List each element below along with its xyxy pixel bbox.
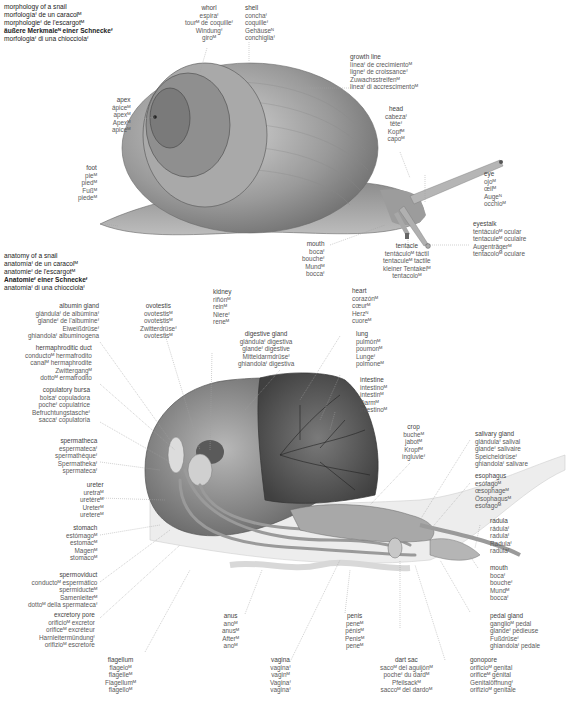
label-ureter: ureter uretraᴹ uretèreᴹ Ureterᴹ uretereᴹ [80,481,104,519]
morphology-title: morphology of a snail morfologíaᶠ de un … [4,3,113,43]
label-ovotestis: ovotestis ovotestisᴹ ovotestisᴹ Zwitterd… [140,302,177,340]
label-head: head cabezaᶠ têteᶠ Kopfᴹ capoᴹ [385,105,407,143]
label-anus: anus anoᴹ anusᴹ Afterᴹ anoᴹ [222,612,239,650]
label-pedal-gland: pedal gland ganglioᴹ pedal glandeᶠ pédie… [490,612,540,650]
buccal-mass [430,539,480,561]
label-intestine: intestine intestinoᴹ intestinᴹ Darmᴹ int… [360,376,387,414]
label-shell: shell conchaᶠ coquilleᶠ Gehäuseᴺ conchig… [245,4,275,42]
label-excretory-pore: excretory pore orificioᴹ excretor orific… [39,611,95,649]
albumin-organ [188,454,212,486]
label-lung: lung pulmónᴹ poumonᴹ Lungeᶠ polmoneᴹ [356,330,384,368]
tentacle-tip [405,233,409,239]
label-flagellum: flagellum flageloᴹ flagelleᴹ Flagellumᴹ … [105,656,136,694]
apex-dot [153,115,157,119]
label-kidney: kidney riñónᴹ reinᴹ Niereᶠ reneᴹ [213,288,231,326]
dart-sac-organ [388,538,402,558]
label-mouth-morph: mouth bocaᶠ boucheᶠ Mundᴹ boccaᶠ [302,240,324,278]
label-esophagus: esophagus esófagoᴹ œsophageᴹ Ösophagusᴹ … [475,472,511,510]
title-fr: morphologieᶠ de l'escargotᴹ [4,19,113,27]
label-dart-sac: dart sac sacoᴹ del aguijónᴹ pocheᶠ du da… [380,656,433,694]
snail-morphology-drawing [100,63,503,248]
label-penis: penis peneᴹ pénisᴹ Penisᴹ peneᴹ [345,612,364,650]
label-apex: apex ápiceᴹ apexᴹ Apexᴹ apiceᴹ [112,96,131,134]
label-vagina: vagina vaginaᶠ vaginᴹ Vaginaᶠ vaginaᶠ [270,656,291,694]
label-copulatory-bursa: copulatory bursa bolsaᶠ copuladora poche… [32,386,90,424]
label-heart: heart corazónᴹ cœurᴹ Herzᴺ cuoreᴹ [352,287,378,325]
label-foot: foot pieᴹ piedᴹ Fußᴹ piedeᴹ [78,164,97,202]
label-eyestalk: eyestalk tentáculoᴹ ocular tentaculeᴹ oc… [473,220,526,258]
label-gonopore: gonopore orificioᴹ genital orificeᴹ géni… [470,656,516,694]
title-en: morphology of a snail [4,3,113,11]
label-stomach: stomach estómagoᴹ estomacᴹ Magenᴹ stomac… [66,524,97,562]
label-spermoviduct: spermoviduct conductoᴹ espermático sperm… [28,571,97,609]
label-salivary-gland: salivary gland glándulaᶠ salival glandeᶠ… [475,430,528,468]
label-albumin-gland: albumin gland glándulaᶠ de albúminaᶠ gla… [28,302,99,340]
label-eye: eye ojoᴹ œilᴹ Augeᴺ occhioᴹ [484,170,506,208]
eye-dot [499,160,503,164]
label-mouth-anatomy: mouth bocaᶠ boucheᶠ Mundᴹ boccaᶠ [490,564,512,602]
title-es: morfologíaᶠ de un caracolᴹ [4,11,113,19]
pedal-band [230,563,410,568]
title-it: morfologiaᶠ di una chiocciolaᶠ [4,35,113,43]
label-spermatheca: spermatheca espermatecaᶠ spermathèqueᶠ S… [55,437,97,475]
title-de: äußere Merkmaleᴺ einer Schneckeᶠ [4,27,113,35]
label-growth-line: growth line líneaᶠ de crecimientoᴹ ligne… [350,53,418,91]
label-whorl: whorl espiraᶠ tourᴹ de coquilleᶠ Windung… [185,4,233,42]
label-radula: radula rádulaᶠ radulaᶠ Radulaᶠ radulaᶠ [490,517,512,555]
label-tentacle: tentacle tentáculoᴹ táctil tentaculeᴹ ta… [383,242,431,280]
label-crop: crop bucheᴹ jabotᴹ Kropfᴹ ingluvieᶠ [402,423,425,461]
anatomy-title: anatomy of a snail anatomíaᶠ de un carac… [4,252,87,292]
label-hermaphroditic-duct: hermaphroditic duct conductoᴹ hermafrodi… [25,344,92,382]
label-digestive-gland: digestive gland glándulaᶠ digestiva glan… [238,330,294,368]
